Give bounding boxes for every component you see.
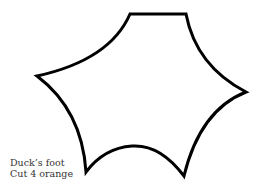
duck-foot-outline	[37, 14, 246, 176]
pattern-caption: Duck’s foot Cut 4 orange	[10, 158, 73, 179]
caption-instructions: Cut 4 orange	[10, 169, 73, 180]
caption-title: Duck’s foot	[10, 158, 73, 169]
